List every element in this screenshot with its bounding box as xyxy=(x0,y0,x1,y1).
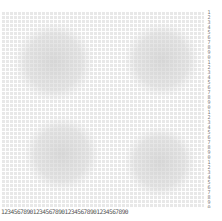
blob-top-left xyxy=(14,22,94,102)
blob-bottom-left xyxy=(24,116,100,192)
blob-top-right xyxy=(124,22,200,98)
top-caption xyxy=(2,0,202,4)
right-digit-ruler: 1234567890123456789012345678901234567890 xyxy=(206,10,212,208)
blob-bottom-right xyxy=(124,126,196,198)
halftone-pattern xyxy=(2,12,204,208)
bottom-digit-ruler: 1234567890123456789012345678901234567890 xyxy=(1,208,128,217)
